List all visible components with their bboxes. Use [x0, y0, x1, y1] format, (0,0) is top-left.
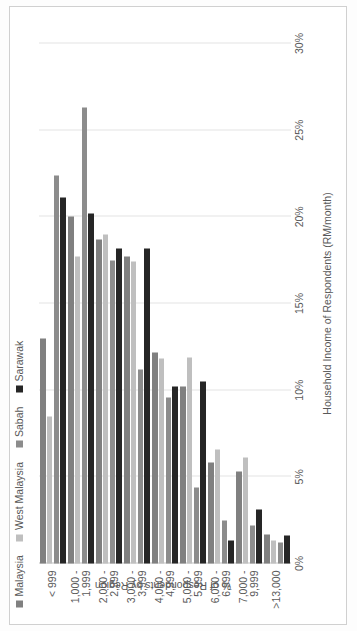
- bar-sabah[interactable]: [110, 260, 115, 563]
- value-tick-label: 15%: [293, 292, 305, 313]
- bar-sarawak[interactable]: [144, 248, 149, 563]
- bar-group: [235, 43, 263, 563]
- bar-sabah[interactable]: [82, 107, 87, 563]
- bar-row: [144, 43, 149, 563]
- bar-sarawak[interactable]: [284, 535, 289, 563]
- value-tick-label: 30%: [293, 32, 305, 53]
- plot-area: [39, 43, 291, 563]
- bar-sarawak[interactable]: [116, 248, 121, 563]
- bar-west-malaysia[interactable]: [131, 261, 136, 563]
- legend-item-sabah[interactable]: Sabah: [13, 406, 25, 447]
- bar-row: [159, 43, 164, 563]
- legend-label: Sarawak: [13, 340, 25, 381]
- chart-frame: MalaysiaWest MalaysiaSabahSarawak < 9991…: [9, 6, 347, 625]
- bar-group: [123, 43, 151, 563]
- bar-sabah[interactable]: [138, 369, 143, 563]
- bar-malaysia[interactable]: [208, 462, 213, 563]
- bar-west-malaysia[interactable]: [271, 540, 276, 563]
- legend-item-west-malaysia[interactable]: West Malaysia: [13, 461, 25, 540]
- legend-item-sarawak[interactable]: Sarawak: [13, 340, 25, 392]
- x-axis-title: Household Income of Respondents (RM/mont…: [321, 43, 333, 563]
- value-tick-label: 20%: [293, 206, 305, 227]
- category-label: 2,000 -2,999: [95, 565, 123, 625]
- bar-sabah[interactable]: [54, 175, 59, 563]
- legend-label: Sabah: [13, 406, 25, 436]
- bar-group: [179, 43, 207, 563]
- bar-malaysia[interactable]: [96, 239, 101, 563]
- bar-malaysia[interactable]: [152, 352, 157, 563]
- bar-west-malaysia[interactable]: [243, 457, 248, 563]
- value-tick-label: 5%: [293, 469, 305, 484]
- bar-sabah[interactable]: [194, 487, 199, 563]
- bar-group: [67, 43, 95, 563]
- bar-row: [103, 43, 108, 563]
- chart-legend: MalaysiaWest MalaysiaSabahSarawak: [13, 340, 25, 607]
- bar-west-malaysia[interactable]: [215, 449, 220, 563]
- value-tick-label: 25%: [293, 119, 305, 140]
- bar-row: [271, 43, 276, 563]
- bar-group: [207, 43, 235, 563]
- chart-canvas: MalaysiaWest MalaysiaSabahSarawak < 9991…: [9, 6, 347, 625]
- bar-malaysia[interactable]: [40, 338, 45, 563]
- bar-row: [166, 43, 171, 563]
- category-label: 4,000 -4,999: [151, 565, 179, 625]
- value-tick-label: 10%: [293, 379, 305, 400]
- legend-swatch-icon: [16, 534, 23, 541]
- bar-sarawak[interactable]: [200, 381, 205, 563]
- chart-page: MalaysiaWest MalaysiaSabahSarawak < 9991…: [0, 0, 357, 631]
- bar-west-malaysia[interactable]: [47, 416, 52, 563]
- bar-row: [96, 43, 101, 563]
- bar-sarawak[interactable]: [88, 213, 93, 563]
- bar-sabah[interactable]: [222, 520, 227, 563]
- category-label: 3,000 -3,999: [123, 565, 151, 625]
- bar-group: [151, 43, 179, 563]
- legend-item-malaysia[interactable]: Malaysia: [13, 555, 25, 607]
- rotated-chart-container: MalaysiaWest MalaysiaSabahSarawak < 9991…: [9, 6, 347, 625]
- bar-malaysia[interactable]: [124, 256, 129, 563]
- bar-row: [54, 43, 59, 563]
- bar-row: [131, 43, 136, 563]
- bar-row: [284, 43, 289, 563]
- category-label: >13,000: [263, 565, 291, 625]
- bar-row: [243, 43, 248, 563]
- bar-row: [222, 43, 227, 563]
- bar-row: [75, 43, 80, 563]
- bar-row: [152, 43, 157, 563]
- bar-malaysia[interactable]: [264, 534, 269, 563]
- bar-sarawak[interactable]: [228, 540, 233, 563]
- bar-west-malaysia[interactable]: [159, 358, 164, 563]
- bar-sabah[interactable]: [166, 397, 171, 563]
- bar-sarawak[interactable]: [256, 509, 261, 563]
- bar-row: [187, 43, 192, 563]
- bar-sabah[interactable]: [278, 542, 283, 563]
- value-tick-label: 0%: [293, 555, 305, 570]
- bar-row: [60, 43, 65, 563]
- bar-row: [82, 43, 87, 563]
- bar-row: [40, 43, 45, 563]
- bar-row: [278, 43, 283, 563]
- bar-row: [124, 43, 129, 563]
- bar-sabah[interactable]: [250, 525, 255, 563]
- bar-group: [263, 43, 291, 563]
- bar-group: [39, 43, 67, 563]
- bar-malaysia[interactable]: [68, 216, 73, 563]
- bar-malaysia[interactable]: [180, 386, 185, 563]
- legend-swatch-icon: [16, 385, 23, 392]
- bar-groups: [39, 43, 291, 563]
- category-axis-labels: < 9991,000 -1,9992,000 -2,9993,000 -3,99…: [39, 565, 291, 625]
- bar-sarawak[interactable]: [60, 197, 65, 563]
- bar-west-malaysia[interactable]: [103, 234, 108, 563]
- bar-west-malaysia[interactable]: [187, 357, 192, 563]
- bar-row: [250, 43, 255, 563]
- bar-row: [256, 43, 261, 563]
- bar-row: [172, 43, 177, 563]
- legend-swatch-icon: [16, 440, 23, 447]
- bar-west-malaysia[interactable]: [75, 256, 80, 563]
- bar-row: [68, 43, 73, 563]
- bar-row: [110, 43, 115, 563]
- bar-sarawak[interactable]: [172, 386, 177, 563]
- bar-row: [228, 43, 233, 563]
- bar-row: [236, 43, 241, 563]
- bar-malaysia[interactable]: [236, 471, 241, 563]
- legend-label: West Malaysia: [13, 461, 25, 529]
